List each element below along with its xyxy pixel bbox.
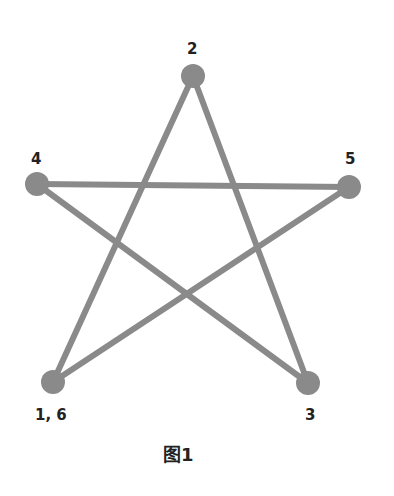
node-label-2: 2 — [187, 42, 197, 57]
star-diagram: 2 4 5 1, 6 3 图1 — [0, 0, 394, 496]
node-label-3: 3 — [305, 408, 315, 423]
node-4 — [25, 172, 49, 196]
node-1-6 — [41, 370, 65, 394]
node-label-4: 4 — [31, 152, 41, 167]
edge-3-4 — [37, 184, 308, 383]
node-label-5: 5 — [345, 152, 355, 167]
edge-4-5 — [37, 184, 349, 187]
node-2 — [181, 64, 205, 88]
figure-caption: 图1 — [163, 446, 194, 464]
node-5 — [337, 175, 361, 199]
node-3 — [296, 371, 320, 395]
edge-2-3 — [193, 76, 308, 383]
node-label-1-6: 1, 6 — [35, 408, 67, 423]
